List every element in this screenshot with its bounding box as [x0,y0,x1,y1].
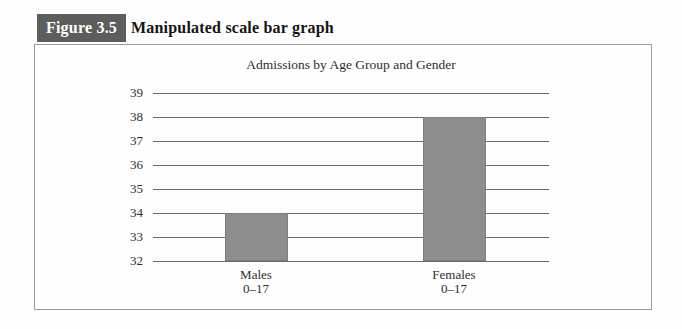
y-tick-label: 36 [109,157,143,173]
x-category-line: 0–17 [394,282,514,296]
gridline [153,213,549,214]
figure-3-5: Figure 3.5 Manipulated scale bar graph A… [0,0,682,329]
x-category-line: Males [196,268,316,282]
gridline [153,237,549,238]
gridline [153,261,549,262]
y-tick-label: 37 [109,133,143,149]
y-tick-label: 39 [109,85,143,101]
gridline [153,141,549,142]
plot-area: 3233343536373839Males0–17Females0–17 [35,45,651,309]
x-category-label: Males0–17 [196,268,316,296]
x-category-line: Females [394,268,514,282]
bar [225,213,288,261]
gridline [153,189,549,190]
figure-title: Manipulated scale bar graph [131,14,334,42]
x-category-label: Females0–17 [394,268,514,296]
gridline [153,93,549,94]
y-tick-label: 33 [109,229,143,245]
y-tick-label: 38 [109,109,143,125]
y-tick-label: 35 [109,181,143,197]
x-category-line: 0–17 [196,282,316,296]
y-tick-label: 34 [109,205,143,221]
figure-content-box: Admissions by Age Group and Gender 32333… [34,44,652,310]
gridline [153,165,549,166]
bar [423,117,486,261]
gridline [153,117,549,118]
figure-number-label: Figure 3.5 [37,14,126,42]
y-tick-label: 32 [109,253,143,269]
